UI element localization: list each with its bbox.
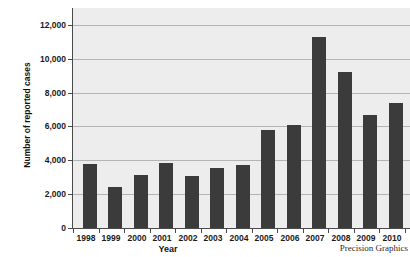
bar-2009 xyxy=(363,115,377,228)
bars-layer xyxy=(73,8,410,228)
x-tick-2010 xyxy=(379,229,380,233)
y-tick-label-4000: 4,000 xyxy=(2,156,66,165)
x-tick-2006 xyxy=(277,229,278,233)
bar-2007 xyxy=(312,37,326,228)
bar-2005 xyxy=(261,130,275,228)
bar-1999 xyxy=(108,187,122,228)
x-tick-1999 xyxy=(99,229,100,233)
y-tick-10000 xyxy=(68,59,73,60)
y-tick-label-2000: 2,000 xyxy=(2,190,66,199)
bar-2004 xyxy=(236,165,250,228)
x-tick-2007 xyxy=(303,229,304,233)
credit-line: Precision Graphics xyxy=(340,243,408,253)
y-tick-6000 xyxy=(68,126,73,127)
y-tick-12000 xyxy=(68,25,73,26)
x-tick-2005 xyxy=(252,229,253,233)
bar-2006 xyxy=(287,125,301,228)
y-tick-label-0: 0 xyxy=(2,224,66,233)
x-axis-title: Year xyxy=(73,244,263,254)
bar-2000 xyxy=(134,175,148,228)
x-tick-2000 xyxy=(124,229,125,233)
bar-1998 xyxy=(83,164,97,228)
y-tick-2000 xyxy=(68,194,73,195)
x-tick-2008 xyxy=(328,229,329,233)
y-tick-label-8000: 8,000 xyxy=(2,88,66,97)
bar-chart-figure: 12,000 10,000 8,000 6,000 4,000 2,000 0 … xyxy=(0,0,410,257)
y-tick-labels: 12,000 10,000 8,000 6,000 4,000 2,000 0 xyxy=(0,0,66,257)
y-tick-label-6000: 6,000 xyxy=(2,122,66,131)
y-tick-4000 xyxy=(68,160,73,161)
x-tick-2001 xyxy=(150,229,151,233)
x-tick-2004 xyxy=(226,229,227,233)
bar-2010 xyxy=(389,103,403,228)
bar-2001 xyxy=(159,163,173,228)
x-tick-1998 xyxy=(73,229,74,233)
x-tick-2002 xyxy=(175,229,176,233)
y-tick-8000 xyxy=(68,93,73,94)
bar-2008 xyxy=(338,72,352,228)
x-tick-2003 xyxy=(201,229,202,233)
bar-2003 xyxy=(210,168,224,228)
bar-2002 xyxy=(185,176,199,228)
y-axis-title: Number of reported cases xyxy=(22,45,32,185)
y-tick-label-10000: 10,000 xyxy=(2,55,66,64)
x-tick-2009 xyxy=(354,229,355,233)
x-tick-label-2010: 2010 xyxy=(375,234,409,243)
y-tick-label-12000: 12,000 xyxy=(2,21,66,30)
x-tick-end xyxy=(405,229,406,233)
y-axis-line xyxy=(72,8,73,229)
